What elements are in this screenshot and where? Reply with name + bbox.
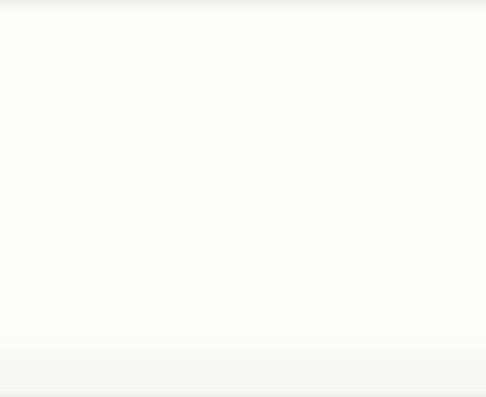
us-nonattainment-map: .st{fill:#ffffff;stroke:#4a4a4a;stroke-w… xyxy=(0,0,486,330)
map-date-stamp: 09/2004 xyxy=(405,207,439,217)
legend-row-3-pollutants: County Designated Nonattainment for 3 NA… xyxy=(234,341,482,351)
legend-swatch-4-pollutants xyxy=(234,331,247,340)
scan-bottom-edge xyxy=(0,389,486,397)
legend-label-3-pollutants: County Designated Nonattainment for 3 NA… xyxy=(252,341,463,350)
legend-row-4-pollutants: County Designated Nonattainment for 4 NA… xyxy=(234,330,482,340)
legend-label-2-pollutants: County Designated Nonattainment for 2 NA… xyxy=(252,352,463,361)
hawaii-inset xyxy=(126,282,218,307)
map-legend: Legend ** County Designated Nonattainmen… xyxy=(234,316,482,372)
legend-swatch-1-pollutant xyxy=(234,362,247,371)
alaska-inset xyxy=(52,238,180,328)
legend-label-1-pollutant: County Designated Nonattainment for 1 NA… xyxy=(252,362,463,371)
legend-row-2-pollutants: County Designated Nonattainment for 2 NA… xyxy=(234,351,482,361)
map-page: .st{fill:#ffffff;stroke:#4a4a4a;stroke-w… xyxy=(0,0,486,397)
legend-row-1-pollutant: County Designated Nonattainment for 1 NA… xyxy=(234,362,482,372)
map-svg: .st{fill:#ffffff;stroke:#4a4a4a;stroke-w… xyxy=(0,0,486,330)
legend-swatch-3-pollutants xyxy=(234,341,247,350)
legend-swatch-2-pollutants xyxy=(234,352,247,361)
legend-title: Legend ** xyxy=(236,316,482,325)
legend-label-4-pollutants: County Designated Nonattainment for 4 NA… xyxy=(252,331,463,340)
